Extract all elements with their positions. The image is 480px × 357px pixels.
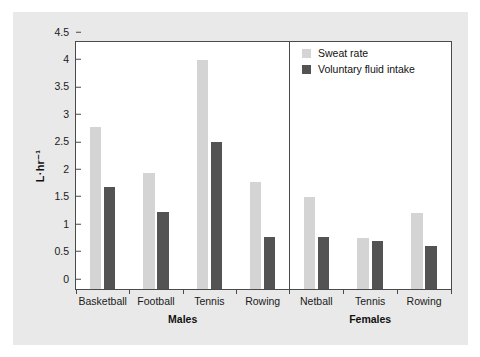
y-tick: 4: [63, 54, 76, 65]
x-category-label: Tennis: [194, 296, 224, 308]
y-tick-label: 3: [63, 108, 69, 120]
y-tick-label: 4: [63, 53, 69, 65]
legend-swatch: [302, 65, 311, 74]
y-tick-mark: [76, 141, 81, 142]
y-tick: 4.5: [54, 26, 76, 37]
x-tick-mark: [451, 289, 452, 294]
y-tick-label: 0: [63, 272, 69, 284]
plot-area: L·hr⁻¹ 00.511.522.533.544.5 BasketballFo…: [76, 42, 451, 289]
y-axis-label: L·hr⁻¹: [34, 149, 47, 181]
x-tick-mark: [183, 289, 184, 294]
x-tick-mark: [129, 289, 130, 294]
x-category-label: Basketball: [78, 296, 126, 308]
bar: [372, 241, 383, 289]
x-category-label: Rowing: [407, 296, 442, 308]
y-tick-label: 3.5: [54, 80, 69, 92]
y-tick-mark: [76, 32, 81, 33]
group-divider: [289, 42, 290, 289]
y-tick: 0: [63, 273, 76, 284]
y-tick: 2.5: [54, 136, 76, 147]
y-tick-mark: [76, 114, 81, 115]
figure-panel: L·hr⁻¹ 00.511.522.533.544.5 BasketballFo…: [13, 12, 468, 345]
bar: [250, 182, 261, 289]
y-tick: 1.5: [54, 191, 76, 202]
legend-item: Voluntary fluid intake: [302, 63, 415, 75]
y-tick-mark: [76, 279, 81, 280]
legend-swatch: [302, 49, 311, 58]
group-label: Females: [349, 313, 391, 325]
bar: [304, 197, 315, 289]
legend-label: Voluntary fluid intake: [318, 63, 415, 75]
y-tick-mark: [76, 196, 81, 197]
y-tick-mark: [76, 224, 81, 225]
y-tick: 3: [63, 109, 76, 120]
bar: [425, 246, 436, 289]
bar: [264, 237, 275, 289]
bar: [104, 187, 115, 289]
y-tick: 3.5: [54, 81, 76, 92]
bar: [411, 213, 422, 289]
y-tick-label: 1: [63, 217, 69, 229]
x-tick-mark: [76, 289, 77, 294]
legend-item: Sweat rate: [302, 47, 415, 59]
group-label: Males: [168, 313, 197, 325]
y-tick-mark: [76, 59, 81, 60]
y-tick-label: 1.5: [54, 190, 69, 202]
bar: [197, 60, 208, 289]
x-category-label: Tennis: [355, 296, 385, 308]
plot-frame: L·hr⁻¹ 00.511.522.533.544.5 BasketballFo…: [75, 41, 452, 290]
y-tick: 0.5: [54, 246, 76, 257]
x-tick-mark: [343, 289, 344, 294]
y-tick-mark: [76, 251, 81, 252]
x-tick-mark: [397, 289, 398, 294]
y-tick: 1: [63, 218, 76, 229]
chart-legend: Sweat rateVoluntary fluid intake: [302, 47, 415, 79]
bar: [90, 127, 101, 289]
x-tick-mark: [236, 289, 237, 294]
bar: [357, 238, 368, 289]
y-tick-label: 2: [63, 162, 69, 174]
bar: [318, 237, 329, 289]
bar: [157, 212, 168, 289]
legend-label: Sweat rate: [318, 47, 368, 59]
x-category-label: Rowing: [245, 296, 280, 308]
x-category-label: Football: [137, 296, 174, 308]
y-tick-label: 0.5: [54, 245, 69, 257]
bar: [143, 173, 154, 289]
x-category-label: Netball: [300, 296, 333, 308]
y-tick-mark: [76, 169, 81, 170]
x-tick-mark: [289, 289, 290, 294]
y-tick-label: 4.5: [54, 25, 69, 37]
y-tick: 2: [63, 163, 76, 174]
y-tick-label: 2.5: [54, 135, 69, 147]
y-tick-mark: [76, 86, 81, 87]
bar: [211, 142, 222, 289]
